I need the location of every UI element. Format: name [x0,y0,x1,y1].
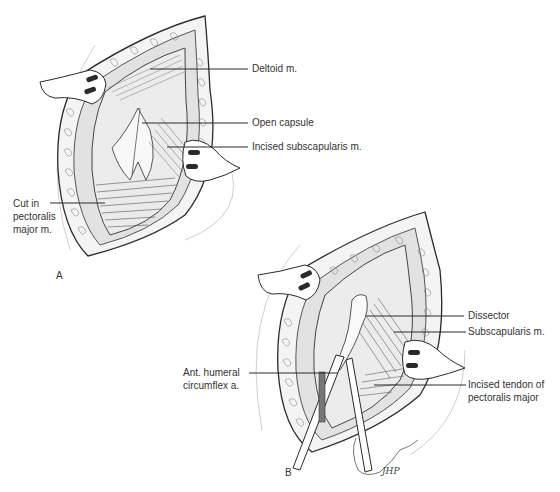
label-cut-pectoralis-1: Cut in [13,198,39,210]
label-subscapularis: Subscapularis m. [468,326,545,338]
label-open-capsule: Open capsule [252,117,314,129]
panel-a-illustration [40,16,248,256]
label-ant-humeral-1: Ant. humeral [183,367,240,379]
artist-signature: JHP [380,466,400,476]
label-ant-humeral-2: circumflex a. [183,380,239,392]
label-cut-pectoralis-2: pectoralis [13,211,56,223]
label-incised-tendon-2: pectoralis major [468,392,539,404]
panel-letter-b: B [285,467,292,478]
label-cut-pectoralis-3: major m. [13,224,52,236]
label-dissector: Dissector [468,310,510,322]
label-deltoid: Deltoid m. [252,63,297,75]
panel-letter-a: A [56,270,63,281]
label-incised-tendon-1: Incised tendon of [468,379,544,391]
label-incised-subscapularis: Incised subscapularis m. [252,141,362,153]
panel-b-illustration: JHP [249,212,466,476]
